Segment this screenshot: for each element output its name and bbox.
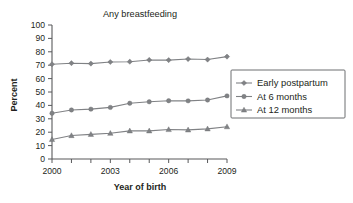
series-at-6-months [50,94,229,116]
x-tick-label: 2003 [101,166,120,176]
data-point [108,59,113,64]
x-tick-label: 2000 [42,166,61,176]
chart-figure: Any breastfeeding Percent Year of birth … [0,0,353,203]
y-tick-label: 0 [40,154,45,164]
series-at-12-months [49,124,229,142]
chart-title: Any breastfeeding [103,9,177,19]
series-line [52,57,227,65]
data-point [147,100,151,104]
chart-legend: Early postpartumAt 6 monthsAt 12 months [231,70,345,118]
y-tick-label: 10 [35,141,45,151]
y-tick-label: 50 [35,87,45,97]
data-point [224,54,229,59]
y-tick-label: 30 [35,114,45,124]
y-tick-label: 60 [35,74,45,84]
data-point [69,108,73,112]
y-tick-label: 90 [35,33,45,43]
series-early-postpartum [49,54,229,67]
y-tick-group: 0102030405060708090100 [31,20,52,164]
series-line [52,127,227,140]
data-point [186,56,191,61]
x-axis: 2000200320062009 [42,159,236,176]
legend-label: Early postpartum [257,77,328,88]
data-point [186,99,190,103]
legend-label: At 6 months [257,91,307,102]
series-line [52,96,227,113]
data-point [128,101,132,105]
data-point [166,99,170,103]
y-axis-label: Percent [9,78,19,111]
data-point [225,94,229,98]
data-point [127,59,132,64]
data-point [205,98,209,102]
x-tick-label: 2006 [159,166,178,176]
data-point [89,107,93,111]
x-tick-group: 2000200320062009 [42,159,236,176]
y-tick-label: 70 [35,60,45,70]
x-axis-label: Year of birth [114,182,167,192]
data-point [147,57,152,62]
data-point [242,94,246,98]
y-tick-label: 20 [35,127,45,137]
y-axis: 0102030405060708090100 [31,20,52,164]
y-tick-label: 40 [35,100,45,110]
legend-label: At 12 months [257,104,313,115]
line-chart: Any breastfeeding Percent Year of birth … [0,0,353,203]
data-point [108,105,112,109]
data-point [224,124,229,129]
y-tick-label: 100 [31,20,46,30]
series-group [49,54,229,142]
data-point [69,61,74,66]
y-tick-label: 80 [35,47,45,57]
data-point [49,62,54,67]
data-point [88,61,93,66]
x-tick-label: 2009 [217,166,236,176]
data-point [205,57,210,62]
data-point [166,58,171,63]
data-point [50,111,54,115]
